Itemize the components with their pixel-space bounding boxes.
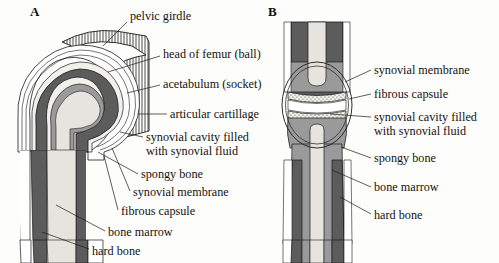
label-bone-marrow: bone marrow <box>108 226 173 240</box>
lower-shaft-bottom-b <box>283 240 352 263</box>
label-fibrous-capsule-b: fibrous capsule <box>374 88 448 102</box>
lower-bone-marrow-b <box>310 124 324 244</box>
label-spongy-bone: spongy bone <box>141 168 203 182</box>
label-hard-bone-b: hard bone <box>374 209 422 223</box>
femur-shaft-a <box>18 150 104 244</box>
label-acetabulum: acetabulum (socket) <box>163 78 261 92</box>
panel-letter-b: B <box>268 4 277 20</box>
panel-b-illustration <box>282 22 371 263</box>
label-hard-bone: hard bone <box>92 245 140 259</box>
label-synovial-cavity-b: synovial cavity filled with synovial flu… <box>374 111 477 138</box>
label-synovial-membrane: synovial membrane <box>133 186 229 200</box>
label-bone-marrow-b: bone marrow <box>374 181 439 195</box>
lower-periosteum-right-b <box>344 160 352 244</box>
label-synovial-cavity: synovial cavity filled with synovial flu… <box>146 131 249 158</box>
label-fibrous-capsule: fibrous capsule <box>121 205 195 219</box>
panel-letter-a: A <box>30 4 40 20</box>
lower-periosteum-left-b <box>283 160 292 244</box>
femur-shaft-lower-a <box>20 240 103 263</box>
joint-anatomy-figure: A B pelvic girdle head of femur (ball) a… <box>0 0 499 263</box>
label-pelvic-girdle: pelvic girdle <box>130 10 191 24</box>
upper-bone-marrow-b <box>308 22 326 86</box>
label-head-of-femur: head of femur (ball) <box>163 48 261 62</box>
label-articular-cartilage: articular cartillage <box>170 108 259 122</box>
label-synovial-membrane-b: synovial membrane <box>374 64 470 78</box>
label-spongy-bone-b: spongy bone <box>374 152 436 166</box>
